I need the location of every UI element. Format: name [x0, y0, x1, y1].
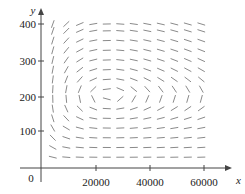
slope-segment [157, 59, 165, 62]
slope-segment [117, 88, 124, 91]
slope-segment [157, 40, 165, 42]
slope-segment [157, 127, 165, 128]
slope-segment [171, 49, 179, 52]
y-ticks: 100 200 300 400 [20, 18, 45, 137]
slope-segment [184, 49, 192, 52]
x-tick-label: 20000 [82, 176, 110, 188]
slope-segment [159, 95, 162, 103]
slope-segment [78, 85, 81, 92]
slope-segment [157, 68, 164, 71]
slope-segment [63, 28, 69, 34]
slope-segment [62, 147, 70, 148]
slope-segment [144, 78, 151, 82]
slope-segment [64, 47, 69, 53]
slope-segment [143, 128, 151, 129]
slope-segment [157, 107, 164, 111]
slope-segment [170, 30, 178, 32]
slope-segment [144, 107, 151, 110]
slope-segment [184, 68, 191, 72]
slope-segment [170, 23, 178, 25]
slope-segment [157, 117, 165, 119]
slope-segment [89, 40, 97, 42]
slope-segment [198, 106, 204, 111]
slope-segment [184, 30, 192, 32]
slope-segment [157, 77, 164, 81]
slope-segment [187, 95, 189, 103]
slope-segment [130, 50, 138, 51]
y-tick-label: 100 [20, 125, 37, 137]
slope-segment [197, 137, 205, 138]
slope-segment [63, 136, 71, 139]
slope-segment [116, 108, 124, 109]
slope-segment [143, 23, 151, 25]
slope-segment [89, 49, 97, 51]
slope-segment [170, 117, 178, 119]
slope-segment [130, 59, 138, 61]
x-axis-arrow-icon [225, 165, 232, 171]
slope-segment [198, 68, 205, 72]
slope-segment [197, 23, 205, 25]
origin-label: 0 [28, 172, 34, 184]
slope-segment [198, 39, 206, 42]
slope-segment [51, 20, 54, 28]
slope-segment [89, 23, 97, 24]
slope-segment [184, 137, 192, 138]
slope-segment [184, 127, 192, 128]
slope-segment [198, 49, 205, 52]
slope-segment [50, 135, 56, 141]
x-tick-label: 40000 [136, 176, 164, 188]
slope-segment [157, 137, 165, 138]
slope-segment [66, 85, 67, 93]
slope-segment [157, 23, 165, 25]
slope-segment [89, 59, 97, 61]
slope-segment [130, 107, 138, 110]
slope-segment [89, 69, 97, 71]
slope-segment [52, 115, 54, 123]
slope-segment [198, 117, 206, 120]
slope-segment [90, 78, 97, 81]
slope-segment [62, 157, 70, 158]
slope-segment [64, 38, 69, 44]
y-axis-arrow-icon [38, 8, 44, 15]
slope-segment [76, 137, 84, 138]
slope-segment [143, 49, 151, 51]
slope-segment [66, 95, 67, 103]
slope-segment [76, 22, 83, 25]
y-tick-label: 400 [20, 18, 37, 30]
slope-segment [63, 126, 70, 130]
slope-segment [53, 85, 54, 93]
slope-segment [117, 96, 123, 101]
slope-segment [65, 76, 68, 83]
slope-segment [170, 137, 178, 138]
slope-segment [157, 49, 165, 51]
slope-segment [116, 118, 124, 119]
slope-segment [76, 127, 84, 129]
slope-segment [76, 29, 83, 32]
slope-segment [143, 59, 151, 61]
slope-segment [116, 24, 124, 25]
slope-segment [52, 105, 53, 113]
slope-segment [51, 125, 55, 132]
slope-segment [63, 21, 69, 27]
slope-segment [76, 58, 83, 62]
slope-segment [64, 115, 70, 121]
slope-segment [130, 118, 138, 119]
slope-segment [116, 50, 124, 51]
slope-segment [90, 107, 97, 110]
slope-segment [145, 86, 150, 92]
slope-segment [130, 69, 138, 71]
slope-segment [184, 39, 192, 42]
slope-segment [170, 127, 178, 128]
slope-segment [131, 87, 137, 92]
slope-segment [79, 95, 81, 103]
y-tick-label: 200 [20, 91, 37, 103]
slope-segment [52, 75, 53, 83]
slope-segment [77, 67, 83, 72]
slope-segment [77, 106, 83, 112]
slope-segment [103, 98, 111, 100]
slope-segment [185, 77, 191, 82]
slope-segment [184, 58, 191, 61]
slope-segment [143, 117, 151, 119]
slope-segment [76, 117, 83, 120]
slope-segments [49, 20, 205, 158]
